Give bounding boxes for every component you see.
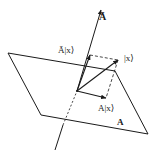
axis-abar-lower bbox=[55, 125, 63, 150]
label-x: |x⟩ bbox=[124, 53, 134, 63]
origin-point bbox=[76, 90, 78, 92]
axis-abar-upper bbox=[77, 10, 101, 91]
label-a-x: A|x⟩ bbox=[98, 103, 114, 113]
dashed-x-to-ax bbox=[106, 60, 118, 98]
vector-a-x bbox=[77, 91, 106, 98]
label-plane-a: A bbox=[117, 117, 124, 127]
dashed-abar-to-x bbox=[90, 55, 118, 60]
label-abar-x: Ā|x⟩ bbox=[58, 45, 74, 55]
plane-A bbox=[8, 53, 148, 134]
label-abar-axis: Ā bbox=[99, 11, 107, 22]
projection-diagram: Ā Ā|x⟩ |x⟩ A|x⟩ A bbox=[0, 0, 155, 157]
